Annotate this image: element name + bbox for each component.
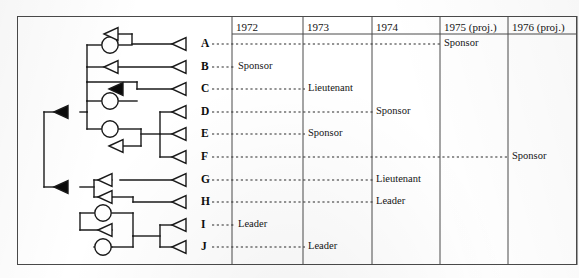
row-letter-a: A (201, 37, 209, 49)
cell-label-j: Leader (308, 240, 337, 251)
row-letter-g: G (201, 173, 210, 185)
cell-label-h: Leader (376, 195, 405, 206)
row-letter-c: C (201, 82, 209, 94)
cell-label-a: Sponsor (444, 37, 478, 48)
row-letter-b: B (201, 60, 209, 72)
row-letter-j: J (201, 240, 207, 252)
row-letter-e: E (201, 127, 209, 139)
cell-label-b: Sponsor (238, 60, 272, 71)
cell-label-g: Lieutenant (376, 173, 421, 184)
row-letter-h: H (201, 195, 210, 207)
leader-lines-layer (0, 0, 579, 278)
cell-label-i: Leader (238, 218, 267, 229)
cell-label-d: Sponsor (376, 105, 410, 116)
cell-label-c: Lieutenant (308, 82, 353, 93)
figure-root: 1972197319741975 (proj.)1976 (proj.) ABC… (0, 0, 579, 278)
row-letter-i: I (201, 218, 205, 230)
cell-label-f: Sponsor (512, 150, 546, 161)
row-letter-d: D (201, 105, 209, 117)
row-letter-f: F (201, 150, 208, 162)
cell-label-e: Sponsor (308, 127, 342, 138)
